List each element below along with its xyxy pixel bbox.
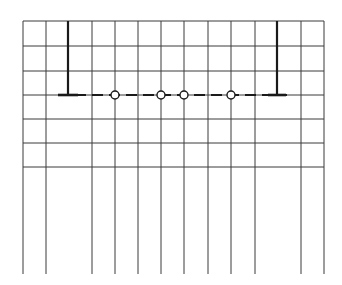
node-1 [111,91,119,99]
grid-diagram [0,0,342,285]
node-3 [180,91,188,99]
node-2 [157,91,165,99]
node-4 [227,91,235,99]
